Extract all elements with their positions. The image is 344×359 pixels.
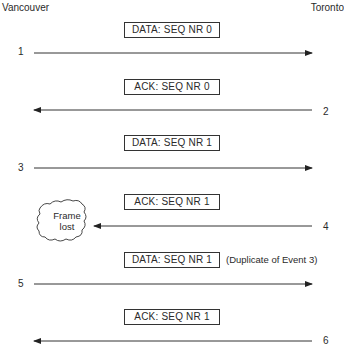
event-number-5: 5: [18, 278, 24, 289]
frame-box-event-5: DATA: SEQ NR 1: [124, 252, 220, 268]
lost-frame-line2: lost: [47, 221, 87, 232]
frame-box-event-4: ACK: SEQ NR 1: [124, 194, 220, 210]
frame-box-event-2: ACK: SEQ NR 0: [124, 79, 220, 95]
lost-frame-label: Frame lost: [47, 210, 87, 232]
event-number-1: 1: [18, 46, 24, 57]
event-number-6: 6: [323, 335, 329, 346]
frame-box-event-1: DATA: SEQ NR 0: [124, 22, 220, 38]
event-number-2: 2: [323, 106, 329, 117]
event-number-3: 3: [18, 162, 24, 173]
event-number-4: 4: [323, 221, 329, 232]
frame-box-event-6: ACK: SEQ NR 1: [124, 309, 220, 325]
duplicate-annotation: (Duplicate of Event 3): [226, 254, 317, 265]
lost-frame-line1: Frame: [47, 210, 87, 221]
frame-box-event-3: DATA: SEQ NR 1: [124, 135, 220, 151]
arrows-layer: [0, 0, 344, 359]
